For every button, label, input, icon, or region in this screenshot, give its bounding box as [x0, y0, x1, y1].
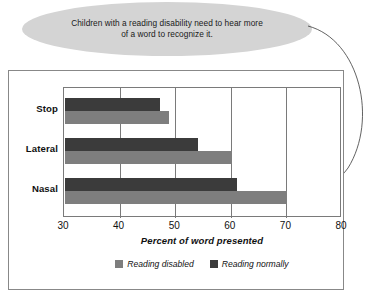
xtick-40: 40 — [113, 220, 124, 231]
legend-item-reading-disabled: Reading disabled — [115, 259, 193, 269]
xtick-30: 30 — [57, 220, 68, 231]
callout-bubble: Children with a reading disability need … — [22, 2, 312, 56]
legend-label-reading-disabled: Reading disabled — [127, 259, 193, 269]
xtick-60: 60 — [224, 220, 235, 231]
category-label-lateral: Lateral — [2, 143, 58, 154]
plot-area-wrapper — [63, 87, 341, 217]
xtick-70: 70 — [280, 220, 291, 231]
legend-swatch-icon-reading-normally — [210, 260, 218, 268]
chart-legend: Reading disabled Reading normally — [63, 256, 341, 272]
plot-area — [63, 87, 341, 217]
x-axis-ticks: 30 40 50 60 70 80 — [63, 220, 341, 234]
bar-stop-reading-disabled — [65, 111, 169, 124]
category-label-nasal: Nasal — [2, 183, 58, 194]
bar-nasal-reading-normally — [65, 178, 237, 191]
xtick-80: 80 — [335, 220, 346, 231]
category-label-stop: Stop — [2, 103, 58, 114]
bar-stop-reading-normally — [65, 98, 160, 111]
bar-nasal-reading-disabled — [65, 191, 287, 204]
chart-figure: Children with a reading disability need … — [0, 0, 380, 296]
x-axis-title: Percent of word presented — [63, 235, 341, 246]
legend-label-reading-normally: Reading normally — [222, 259, 289, 269]
legend-swatch-icon-reading-disabled — [115, 260, 123, 268]
legend-item-reading-normally: Reading normally — [210, 259, 289, 269]
bar-lateral-reading-normally — [65, 138, 198, 151]
callout-text: Children with a reading disability need … — [67, 18, 267, 41]
xtick-50: 50 — [169, 220, 180, 231]
bar-lateral-reading-disabled — [65, 151, 232, 164]
category-axis: Stop Lateral Nasal — [0, 87, 58, 217]
